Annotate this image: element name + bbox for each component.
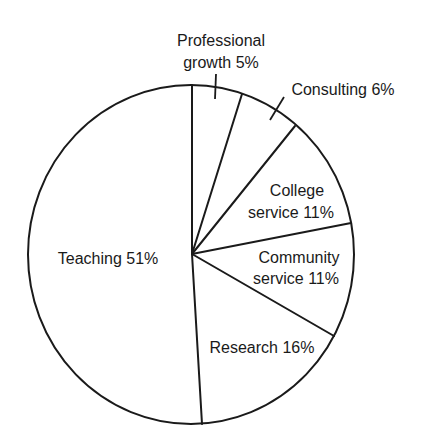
label-research: Research 16% — [210, 339, 315, 356]
label-college-service-line1: College — [270, 182, 324, 199]
label-community-service-line1: Community — [259, 249, 340, 266]
leader-professional-growth — [215, 74, 216, 99]
label-college-service-line2: service 11% — [248, 204, 334, 221]
label-consulting: Consulting 6% — [291, 81, 394, 98]
label-teaching: Teaching 51% — [58, 250, 159, 267]
label-community-service-line2: service 11% — [253, 270, 339, 287]
label-professional-growth-line1: Professional — [177, 32, 265, 49]
pie-chart: Teaching 51% Professional growth 5% Cons… — [0, 0, 422, 447]
label-professional-growth-line2: growth 5% — [183, 54, 259, 71]
